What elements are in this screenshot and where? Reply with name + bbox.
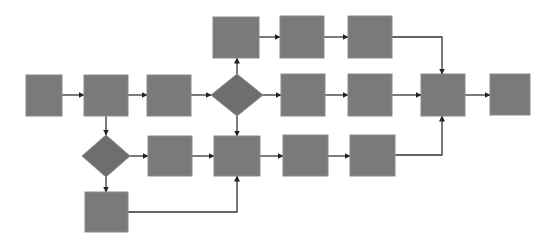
decision-diamond-d2 bbox=[82, 135, 130, 177]
arrow-t3-to-merge bbox=[392, 37, 442, 74]
process-box-b2 bbox=[214, 136, 260, 176]
process-box-m1 bbox=[281, 74, 325, 116]
process-box-b4 bbox=[350, 135, 395, 176]
process-box-b3 bbox=[283, 135, 328, 176]
process-box-m2 bbox=[348, 74, 392, 116]
connectors bbox=[62, 37, 490, 212]
arrow-k1-to-b2 bbox=[128, 176, 237, 212]
process-box-n1 bbox=[26, 75, 62, 116]
decision-diamond-d1 bbox=[211, 74, 263, 116]
flowchart-diagram bbox=[0, 0, 556, 243]
process-box-t3 bbox=[348, 16, 392, 58]
process-box-merge bbox=[421, 74, 465, 116]
process-box-b1 bbox=[148, 136, 192, 176]
process-box-k1 bbox=[85, 192, 128, 232]
process-box-n3 bbox=[147, 75, 191, 116]
arrow-b4-to-merge bbox=[395, 116, 442, 155]
flowchart-canvas bbox=[0, 0, 556, 243]
process-box-n2 bbox=[84, 75, 128, 116]
process-box-t2 bbox=[280, 16, 324, 58]
process-box-t1 bbox=[213, 17, 259, 58]
nodes bbox=[26, 16, 530, 232]
process-box-final bbox=[490, 74, 530, 115]
